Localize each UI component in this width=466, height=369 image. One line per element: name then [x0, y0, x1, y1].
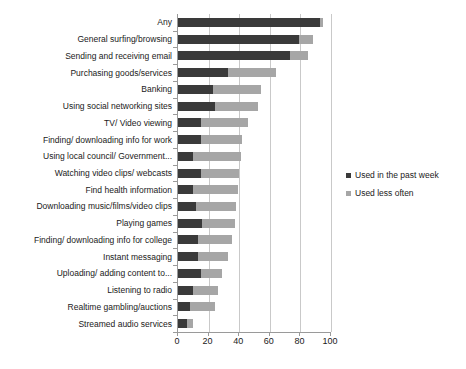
category-label: Downloading music/films/video clips	[36, 201, 172, 211]
legend-swatch-icon-light	[346, 191, 351, 196]
bar-row	[178, 185, 331, 194]
bar-segment-less-often	[299, 35, 313, 44]
bar-segment-less-often	[215, 102, 258, 111]
x-tick-label-20: 20	[196, 336, 220, 346]
bar-segment-less-often	[290, 51, 308, 60]
bar-row	[178, 169, 331, 178]
bar-segment-less-often	[201, 169, 239, 178]
bar-row	[178, 51, 331, 60]
bar-row	[178, 269, 331, 278]
bar-segment-less-often	[213, 85, 260, 94]
bar-row	[178, 219, 331, 228]
bar-segment-past-week	[178, 202, 196, 211]
plot-area	[177, 14, 331, 332]
category-label: Using social networking sites	[63, 101, 172, 111]
bar-row	[178, 85, 331, 94]
bar-segment-less-often	[202, 219, 234, 228]
bar-segment-past-week	[178, 102, 215, 111]
bar-segment-less-often	[190, 302, 214, 311]
bar-segment-past-week	[178, 18, 320, 27]
bar-segment-past-week	[178, 135, 201, 144]
bar-segment-less-often	[201, 269, 222, 278]
y-tick	[173, 248, 177, 249]
bar-segment-past-week	[178, 269, 201, 278]
bar-segment-less-often	[193, 286, 217, 295]
category-axis: AnyGeneral surfing/browsingSending and r…	[0, 14, 172, 332]
category-label: Playing games	[116, 218, 172, 228]
x-tick-label-80: 80	[287, 336, 311, 346]
y-tick	[173, 114, 177, 115]
bar-segment-past-week	[178, 185, 193, 194]
bar-segment-less-often	[228, 68, 275, 77]
category-label: Streamed audio services	[78, 319, 172, 329]
y-tick	[173, 31, 177, 32]
y-tick	[173, 181, 177, 182]
y-tick	[173, 81, 177, 82]
bar-row	[178, 118, 331, 127]
bar-rows	[178, 14, 331, 332]
y-tick	[173, 332, 177, 333]
bar-row	[178, 286, 331, 295]
y-tick	[173, 165, 177, 166]
category-label: Find health information	[86, 185, 172, 195]
legend-swatch-icon-dark	[346, 173, 351, 178]
legend-label-past-week: Used in the past week	[355, 168, 439, 182]
bar-segment-past-week	[178, 169, 201, 178]
bar-segment-less-often	[196, 202, 236, 211]
bar-segment-past-week	[178, 286, 193, 295]
legend-item-used-in-the-past-week: Used in the past week	[346, 168, 439, 182]
bar-segment-past-week	[178, 51, 290, 60]
legend-item-used-less-often: Used less often	[346, 186, 439, 200]
x-tick-label-40: 40	[226, 336, 250, 346]
category-label: TV/ Video viewing	[104, 118, 172, 128]
y-tick	[173, 265, 177, 266]
y-tick	[173, 64, 177, 65]
category-label: General surfing/browsing	[78, 34, 173, 44]
legend-label-less-often: Used less often	[355, 186, 414, 200]
bar-row	[178, 319, 331, 328]
category-label: Sending and receiving email	[65, 51, 172, 61]
category-label: Finding/ downloading info for work	[43, 135, 172, 145]
bar-segment-less-often	[201, 118, 248, 127]
bar-segment-less-often	[193, 185, 237, 194]
bar-row	[178, 35, 331, 44]
bar-row	[178, 302, 331, 311]
bar-segment-less-often	[320, 18, 323, 27]
x-tick-label-100: 100	[318, 336, 342, 346]
category-label: Watching video clips/ webcasts	[55, 168, 172, 178]
bar-row	[178, 102, 331, 111]
category-label: Any	[157, 17, 172, 27]
x-axis-line	[177, 332, 331, 333]
bar-segment-past-week	[178, 319, 187, 328]
category-label: Purchasing goods/services	[70, 68, 172, 78]
y-tick	[173, 131, 177, 132]
category-label: Uploading/ adding content to...	[57, 268, 172, 278]
chart-legend: Used in the past week Used less often	[346, 168, 439, 204]
y-tick	[173, 215, 177, 216]
x-tick-label-60: 60	[257, 336, 281, 346]
y-tick	[173, 232, 177, 233]
bar-segment-less-often	[187, 319, 193, 328]
y-tick	[173, 299, 177, 300]
bar-row	[178, 235, 331, 244]
category-label: Using local council/ Government...	[43, 151, 172, 161]
gridline-100	[331, 14, 332, 332]
bar-row	[178, 252, 331, 261]
bar-row	[178, 135, 331, 144]
bar-segment-past-week	[178, 85, 213, 94]
stacked-bar-chart: AnyGeneral surfing/browsingSending and r…	[0, 0, 466, 369]
bar-row	[178, 18, 331, 27]
category-label: Listening to radio	[107, 285, 172, 295]
bar-segment-past-week	[178, 152, 193, 161]
bar-segment-past-week	[178, 252, 198, 261]
y-tick	[173, 98, 177, 99]
category-label: Realtime gambling/auctions	[68, 302, 172, 312]
y-tick	[173, 47, 177, 48]
category-label: Finding/ downloading info for college	[34, 235, 172, 245]
bar-segment-past-week	[178, 118, 201, 127]
y-tick	[173, 198, 177, 199]
bar-segment-past-week	[178, 235, 198, 244]
bar-segment-less-often	[201, 135, 242, 144]
category-label: Banking	[141, 84, 172, 94]
category-label: Instant messaging	[103, 252, 172, 262]
